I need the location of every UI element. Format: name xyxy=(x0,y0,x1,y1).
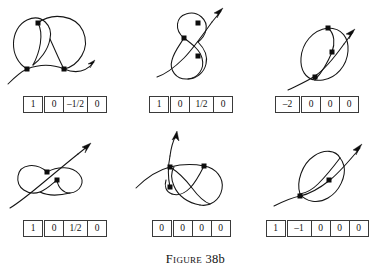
code-cell: 0 xyxy=(192,221,211,237)
code-cell: 0 xyxy=(211,221,230,237)
vertical-figure-eight-knot-diagram xyxy=(126,6,256,98)
table-row: 0 0 0 0 xyxy=(152,221,230,237)
gauss-code-table-1: 1 0 –1/2 0 xyxy=(23,96,107,113)
table-row: 1 0 1/2 0 xyxy=(24,221,107,237)
code-table-wrap: 1 –1 0 0 0 xyxy=(252,220,382,237)
table-row: –2 0 0 0 xyxy=(276,97,359,113)
code-cell: –1/2 xyxy=(64,97,88,113)
gauss-code-table-2: 1 0 1/2 0 xyxy=(149,96,233,113)
panel-top-right: –2 0 0 0 xyxy=(252,6,382,124)
figure-caption: Figure 38b xyxy=(0,252,391,267)
double-loop-knot-diagram xyxy=(0,6,130,98)
code-table-wrap: 1 0 –1/2 0 xyxy=(0,96,130,113)
code-cell: 0 xyxy=(321,97,340,113)
panel-bottom-right: 1 –1 0 0 0 xyxy=(252,130,382,248)
code-cell: –1 xyxy=(286,221,311,237)
code-cell: 0 xyxy=(349,221,368,237)
trefoil-knot-diagram xyxy=(126,130,256,222)
code-cell: 0 xyxy=(172,221,192,237)
diagonal-lens-knot-diagram xyxy=(252,130,382,222)
code-cell: 1 xyxy=(24,221,44,237)
code-cell: –2 xyxy=(276,97,301,113)
code-cell: 0 xyxy=(88,97,107,113)
caption-number: 38b xyxy=(202,252,225,266)
panel-top-center: 1 0 1/2 0 xyxy=(126,6,256,124)
code-cell: 1/2 xyxy=(64,221,88,237)
code-table-wrap: 1 0 1/2 0 xyxy=(126,96,256,113)
code-table-wrap: –2 0 0 0 xyxy=(252,96,382,113)
code-cell: 0 xyxy=(88,221,107,237)
figure-38b: 1 0 –1/2 0 xyxy=(0,0,391,274)
code-cell: 0 xyxy=(170,97,190,113)
panel-bottom-center: 0 0 0 0 xyxy=(126,130,256,248)
code-cell: 0 xyxy=(330,221,349,237)
gauss-code-table-6: 1 –1 0 0 0 xyxy=(266,220,369,237)
gauss-code-table-4: 1 0 1/2 0 xyxy=(23,220,107,237)
panel-bottom-left: 1 0 1/2 0 xyxy=(0,130,130,248)
code-cell: 0 xyxy=(44,97,64,113)
gauss-code-table-3: –2 0 0 0 xyxy=(275,96,359,113)
code-cell: 0 xyxy=(311,221,330,237)
caption-word: Figure xyxy=(166,252,202,266)
table-row: 1 –1 0 0 0 xyxy=(266,221,368,237)
table-row: 1 0 1/2 0 xyxy=(150,97,233,113)
code-cell: 0 xyxy=(214,97,233,113)
code-cell: 1 xyxy=(24,97,44,113)
code-cell: 0 xyxy=(44,221,64,237)
horizontal-figure-eight-knot-diagram xyxy=(0,130,130,222)
panel-top-left: 1 0 –1/2 0 xyxy=(0,6,130,124)
code-cell: 1 xyxy=(150,97,170,113)
code-cell: 0 xyxy=(301,97,321,113)
code-cell: 0 xyxy=(152,221,172,237)
code-table-wrap: 0 0 0 0 xyxy=(126,220,256,237)
gauss-code-table-5: 0 0 0 0 xyxy=(152,220,231,237)
lens-loop-knot-diagram xyxy=(252,6,382,98)
table-row: 1 0 –1/2 0 xyxy=(24,97,107,113)
code-cell: 1/2 xyxy=(190,97,214,113)
code-cell: 1 xyxy=(266,221,286,237)
code-table-wrap: 1 0 1/2 0 xyxy=(0,220,130,237)
code-cell: 0 xyxy=(340,97,359,113)
